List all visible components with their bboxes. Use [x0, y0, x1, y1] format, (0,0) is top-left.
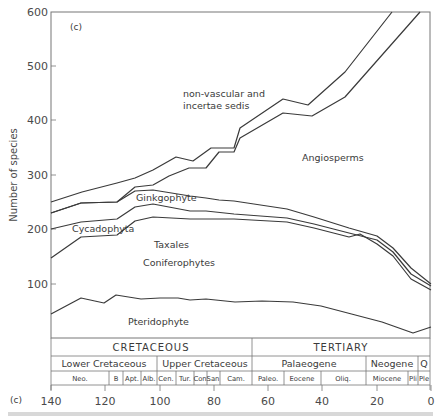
era-cretaceous: CRETACEOUS	[112, 342, 189, 353]
stage-pleistocene: Ple	[419, 375, 429, 383]
x-tick-label: 40	[315, 395, 329, 408]
period-neogene: Neogene	[371, 358, 414, 369]
stage-aptian: Apt.	[125, 375, 139, 383]
series-angiosperms-upper	[51, 12, 420, 213]
x-tick-label: 100	[150, 395, 171, 408]
stage-palaeocene: Paleo.	[258, 375, 278, 383]
series-pteridophyte	[51, 295, 431, 333]
stage-neocomian: Neo.	[72, 375, 87, 383]
panel-label-bottom: (c)	[10, 395, 22, 405]
series-lines	[51, 12, 431, 333]
x-tick-label: 140	[41, 395, 62, 408]
stage-oligocene: Oliq.	[335, 375, 351, 383]
x-tick-label: 120	[95, 395, 116, 408]
period-lower-cretaceous: Lower Cretaceous	[61, 358, 146, 369]
era-tertiary: TERTIARY	[313, 342, 369, 353]
x-tick-label: 20	[370, 395, 384, 408]
series-cycadophyta-upper	[51, 204, 431, 286]
stage-turonian: Tur.	[178, 375, 191, 383]
series-ginkgophyte-upper	[51, 190, 431, 284]
label-taxales: Taxales	[153, 239, 189, 250]
y-tick-label: 400	[27, 114, 48, 127]
y-tick-label: 500	[27, 60, 48, 73]
x-tick-label: 60	[261, 395, 275, 408]
stage-coniacian: Con	[193, 375, 206, 383]
stage-pliocene: Pli	[409, 375, 417, 383]
label-angiosperms: Angiosperms	[302, 152, 364, 163]
stage-cenomanian: Cen.	[158, 375, 173, 383]
y-tick-label: 100	[27, 278, 48, 291]
caption-cutoff	[8, 412, 433, 416]
x-axis: 140 120 100 80 60 40 20 0	[41, 385, 435, 408]
label-ginkgophyte: Ginkgophyte	[136, 192, 197, 203]
label-pteridophyte: Pteridophyte	[128, 316, 189, 327]
stage-santonian: San	[207, 375, 220, 383]
stage-campanian: Cam.	[227, 375, 245, 383]
label-nonvascular-2: incertae sedis	[183, 100, 250, 111]
y-tick-label: 300	[27, 169, 48, 182]
stage-miocene: Miocene	[373, 375, 401, 383]
y-axis-title: Number of species	[8, 128, 19, 222]
y-axis: 100 200 300 400 500 600	[27, 6, 56, 291]
plot-frame	[51, 12, 430, 338]
label-cycadophyta: Cycadophyta	[72, 223, 134, 234]
label-nonvascular-1: non-vascular and	[183, 88, 265, 99]
stage-barremian: B	[114, 375, 119, 383]
panel-label: (c)	[70, 22, 82, 32]
y-tick-label: 200	[27, 223, 48, 236]
geologic-timescale: CRETACEOUS TERTIARY Lower Cretaceous Upp…	[51, 338, 430, 390]
period-quaternary: Q	[420, 358, 427, 369]
stage-albian: Alb.	[142, 375, 155, 383]
label-coniferophytes: Coniferophytes	[143, 257, 215, 268]
y-tick-label: 600	[27, 6, 48, 19]
period-palaeogene: Palaeogene	[282, 358, 337, 369]
stage-eocene: Eocene	[290, 375, 315, 383]
x-tick-label: 0	[428, 395, 435, 408]
diversity-chart: Number of species 100 200 300 400 500 60…	[0, 0, 439, 416]
x-tick-label: 80	[207, 395, 221, 408]
period-upper-cretaceous: Upper Cretaceous	[162, 358, 247, 369]
